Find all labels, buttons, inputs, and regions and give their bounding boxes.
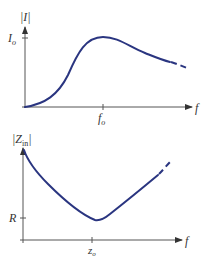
impedance-curve (24, 150, 158, 220)
top-y-axis-label: |I| (20, 10, 31, 24)
peak-current-label: Io (7, 31, 16, 47)
top-x-axis-label: f (195, 101, 200, 115)
impedance-curve-continuation (159, 160, 172, 174)
minimum-frequency-label: zo (87, 244, 96, 258)
input-impedance-plot: |Zin| R zo f (8, 132, 190, 258)
resistance-label: R (8, 211, 17, 225)
resonant-frequency-label: fo (98, 111, 105, 127)
current-curve-continuation (171, 62, 187, 68)
current-curve (25, 37, 170, 107)
current-magnitude-plot: |I| Io fo f (7, 10, 200, 127)
bottom-x-axis-label: f (185, 234, 190, 248)
figure-canvas: |I| Io fo f |Zin| R zo (0, 0, 209, 260)
bottom-y-axis-label: |Zin| (12, 132, 32, 148)
